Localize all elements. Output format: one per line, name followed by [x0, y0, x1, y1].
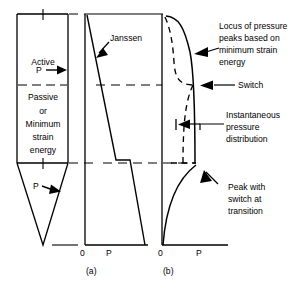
switch-leader	[200, 81, 235, 91]
panel-b-axis-origin-label: 0	[158, 248, 163, 258]
peak-leader	[200, 170, 218, 184]
panel-a-distribution-path	[87, 15, 145, 245]
locus-leader	[194, 47, 219, 57]
switch-annotation: Switch	[238, 80, 263, 90]
panel-b-peak-path	[163, 165, 196, 245]
silo-pressure-symbol-lower: P	[33, 181, 39, 191]
peak-annotation-line-1: Peak with	[228, 182, 265, 192]
silo-pressure-symbol-upper: P	[36, 65, 42, 75]
panel-b-axis-value-label: P	[196, 248, 202, 258]
panel-b-peak-curve	[163, 165, 196, 245]
panel-a-axis-origin-label: 0	[80, 248, 85, 258]
pressure-distribution-figure: Active P Passive or Minimum strain energ…	[0, 0, 304, 288]
silo-passive-zone-label-4: strain	[18, 132, 68, 142]
panel-a-caption: (a)	[86, 266, 97, 276]
locus-annotation-line-3: minimum strain	[219, 45, 277, 55]
locus-annotation-line-2: peaks based on	[219, 33, 280, 43]
locus-leader-head	[194, 47, 208, 57]
instantaneous-annotation-line-1: Instantaneous	[226, 110, 280, 120]
silo-passive-zone-label-3: Minimum	[18, 119, 68, 129]
silo-hopper-outline	[17, 163, 68, 245]
silo-schematic	[17, 14, 68, 245]
locus-annotation-line-1: Locus of pressure	[219, 21, 287, 31]
panel-a-janssen-curve	[87, 15, 145, 245]
silo-passive-zone-label-1: Passive	[18, 92, 68, 102]
instantaneous-leader-elbow	[200, 124, 224, 130]
panel-b-instantaneous-curve	[165, 17, 196, 163]
janssen-leader-head	[96, 48, 108, 58]
switch-leader-head	[200, 81, 213, 91]
silo-active-zone-label: Active	[20, 57, 66, 67]
silo-passive-zone-label-5: energy	[18, 145, 68, 155]
silo-passive-zone-label-2: or	[18, 106, 68, 116]
panel-a-janssen-leader	[96, 42, 109, 58]
janssen-curve-label: Janssen	[110, 33, 142, 43]
panel-b-instantaneous-upper	[165, 17, 193, 85]
instantaneous-annotation-line-3: distribution	[226, 134, 268, 144]
peak-annotation-line-3: transition	[228, 206, 263, 216]
locus-annotation-line-4: energy	[219, 57, 245, 67]
instantaneous-annotation-line-2: pressure	[226, 122, 259, 132]
panel-b-caption: (b)	[163, 266, 174, 276]
panel-a-axis-value-label: P	[106, 248, 112, 258]
peak-annotation-line-2: switch at	[228, 194, 261, 204]
